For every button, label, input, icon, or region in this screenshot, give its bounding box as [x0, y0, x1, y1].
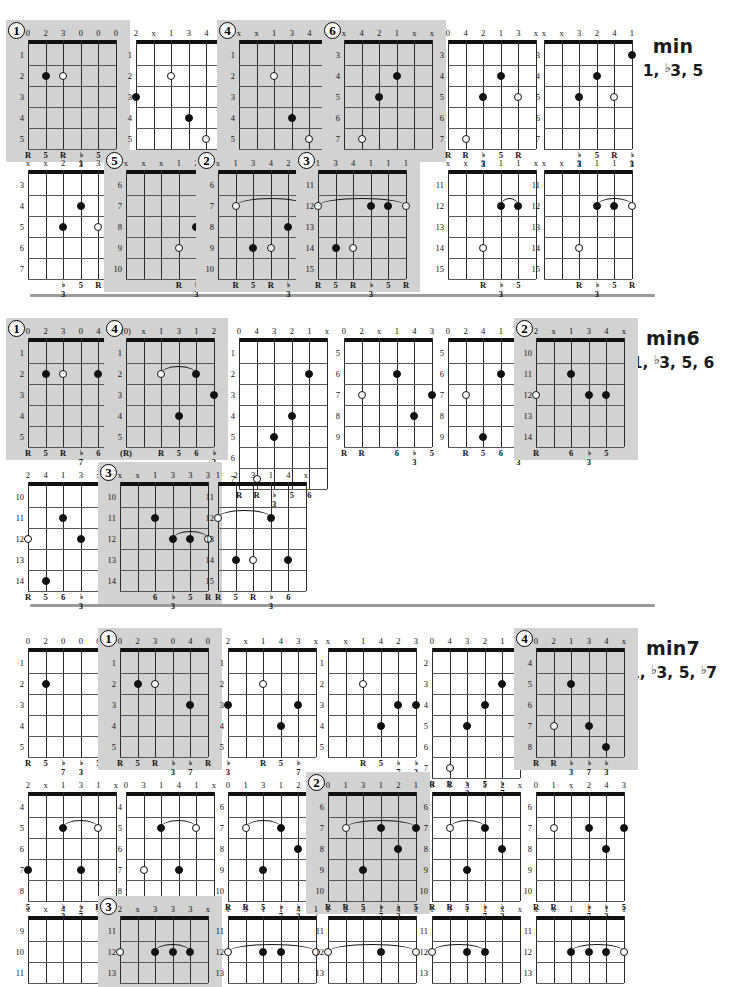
finger-dot-fill[interactable]: [481, 701, 489, 709]
finger-dot-open[interactable]: [140, 866, 148, 874]
finger-dot-fill[interactable]: [288, 412, 296, 420]
finger-dot-open[interactable]: [59, 370, 67, 378]
finger-dot-fill[interactable]: [375, 93, 383, 101]
chord-diagram-min-1-1[interactable]: 102300012345R5R♭35R: [6, 20, 130, 162]
chord-diagram-min7-2-6[interactable]: 01x243678910RR♭7♭35: [514, 772, 638, 914]
finger-dot-open[interactable]: [167, 72, 175, 80]
finger-dot-fill[interactable]: [77, 535, 85, 543]
finger-dot-fill[interactable]: [59, 824, 67, 832]
chord-diagram-min7-3-2[interactable]: 32x333x111213: [98, 896, 222, 987]
finger-dot-fill[interactable]: [593, 202, 601, 210]
finger-dot-fill[interactable]: [267, 514, 275, 522]
finger-dot-fill[interactable]: [377, 824, 385, 832]
finger-dot-fill[interactable]: [479, 433, 487, 441]
finger-dot-open[interactable]: [428, 948, 436, 956]
finger-dot-fill[interactable]: [602, 845, 610, 853]
finger-dot-open[interactable]: [575, 244, 583, 252]
finger-dot-fill[interactable]: [497, 202, 505, 210]
finger-dot-open[interactable]: [446, 824, 454, 832]
finger-dot-fill[interactable]: [593, 72, 601, 80]
finger-dot-fill[interactable]: [498, 680, 506, 688]
finger-dot-fill[interactable]: [224, 701, 232, 709]
finger-dot-open[interactable]: [59, 72, 67, 80]
finger-dot-fill[interactable]: [169, 535, 177, 543]
finger-dot-open[interactable]: [192, 824, 200, 832]
finger-dot-fill[interactable]: [305, 370, 313, 378]
finger-dot-fill[interactable]: [232, 556, 240, 564]
finger-dot-open[interactable]: [358, 135, 366, 143]
finger-dot-fill[interactable]: [384, 202, 392, 210]
finger-dot-open[interactable]: [214, 514, 222, 522]
finger-dot-fill[interactable]: [393, 72, 401, 80]
finger-dot-fill[interactable]: [259, 948, 267, 956]
finger-dot-fill[interactable]: [567, 948, 575, 956]
finger-dot-fill[interactable]: [481, 824, 489, 832]
finger-dot-fill[interactable]: [498, 845, 506, 853]
finger-dot-fill[interactable]: [463, 948, 471, 956]
finger-dot-fill[interactable]: [585, 824, 593, 832]
finger-dot-fill[interactable]: [288, 114, 296, 122]
finger-dot-open[interactable]: [249, 556, 257, 564]
finger-dot-fill[interactable]: [94, 370, 102, 378]
finger-dot-fill[interactable]: [628, 51, 636, 59]
finger-dot-open[interactable]: [259, 680, 267, 688]
chord-diagram-min6-1-2[interactable]: 4(0)x131212345(R)R56♭3: [104, 318, 228, 460]
finger-dot-fill[interactable]: [585, 391, 593, 399]
finger-dot-fill[interactable]: [186, 535, 194, 543]
finger-dot-open[interactable]: [305, 135, 313, 143]
finger-dot-fill[interactable]: [59, 223, 67, 231]
finger-dot-fill[interactable]: [157, 824, 165, 832]
finger-dot-open[interactable]: [202, 135, 210, 143]
chord-diagram-min7-1-2[interactable]: 102304012345R5R♭3♭7R: [98, 628, 222, 770]
finger-dot-fill[interactable]: [497, 370, 505, 378]
chord-diagram-min6-2-3[interactable]: 12314x1112131415R5R♭36: [196, 462, 320, 604]
finger-dot-fill[interactable]: [77, 202, 85, 210]
finger-dot-fill[interactable]: [585, 948, 593, 956]
finger-dot-fill[interactable]: [602, 948, 610, 956]
finger-dot-fill[interactable]: [377, 722, 385, 730]
finger-dot-open[interactable]: [314, 202, 322, 210]
finger-dot-fill[interactable]: [151, 948, 159, 956]
chord-diagram-min-2-6[interactable]: xx31111112131415R♭35R: [522, 150, 646, 292]
chord-diagram-min7-1-6[interactable]: 402134x45678RR♭3♭7♭3: [514, 628, 638, 770]
finger-dot-fill[interactable]: [377, 948, 385, 956]
finger-dot-fill[interactable]: [394, 845, 402, 853]
chord-diagram-min6-1-6[interactable]: 22x134x1011121314R6♭35: [514, 318, 638, 460]
finger-dot-fill[interactable]: [332, 244, 340, 252]
finger-dot-fill[interactable]: [497, 72, 505, 80]
finger-dot-fill[interactable]: [134, 680, 142, 688]
finger-dot-fill[interactable]: [175, 866, 183, 874]
finger-dot-fill[interactable]: [294, 701, 302, 709]
finger-dot-open[interactable]: [232, 202, 240, 210]
finger-dot-open[interactable]: [324, 948, 332, 956]
finger-dot-open[interactable]: [116, 948, 124, 956]
finger-dot-fill[interactable]: [367, 202, 375, 210]
finger-dot-open[interactable]: [151, 680, 159, 688]
finger-dot-fill[interactable]: [567, 680, 575, 688]
chord-diagram-min7-3-6[interactable]: xx1111111213: [514, 896, 638, 987]
finger-dot-fill[interactable]: [602, 391, 610, 399]
finger-dot-fill[interactable]: [479, 93, 487, 101]
finger-dot-open[interactable]: [628, 202, 636, 210]
finger-dot-open[interactable]: [157, 370, 165, 378]
finger-dot-fill[interactable]: [481, 948, 489, 956]
finger-dot-fill[interactable]: [186, 948, 194, 956]
finger-dot-fill[interactable]: [42, 370, 50, 378]
finger-dot-open[interactable]: [358, 391, 366, 399]
finger-dot-fill[interactable]: [277, 722, 285, 730]
finger-dot-open[interactable]: [620, 948, 628, 956]
finger-dot-open[interactable]: [175, 244, 183, 252]
finger-dot-fill[interactable]: [42, 577, 50, 585]
finger-dot-fill[interactable]: [393, 370, 401, 378]
finger-dot-open[interactable]: [462, 391, 470, 399]
finger-dot-fill[interactable]: [249, 244, 257, 252]
finger-dot-open[interactable]: [94, 824, 102, 832]
finger-dot-open[interactable]: [267, 244, 275, 252]
finger-dot-open[interactable]: [479, 244, 487, 252]
finger-dot-open[interactable]: [402, 202, 410, 210]
finger-dot-fill[interactable]: [185, 114, 193, 122]
chord-diagram-min-1-6[interactable]: xx324134567♭35R♭3: [522, 20, 646, 162]
finger-dot-open[interactable]: [532, 391, 540, 399]
finger-dot-open[interactable]: [446, 764, 454, 772]
finger-dot-open[interactable]: [242, 824, 250, 832]
